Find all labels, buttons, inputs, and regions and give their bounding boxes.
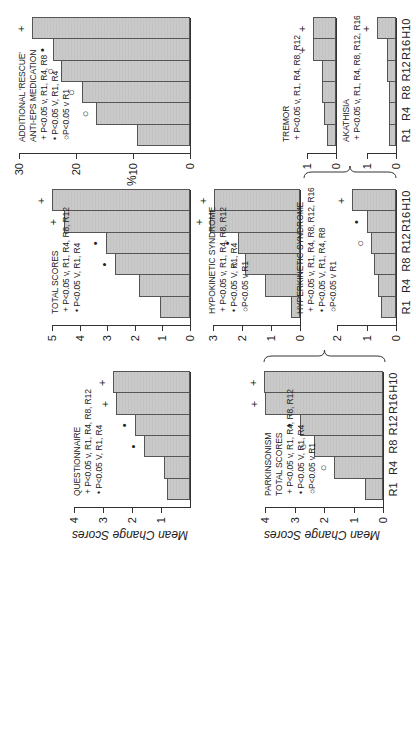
y-axis: 0123 (213, 325, 300, 326)
bar-r1 (389, 124, 396, 146)
chart-hyperkinetic: 012○•+R1R4R8R12R16H10HYPERKINETIC SYNDRO… (337, 190, 396, 318)
bar-r4 (96, 102, 190, 124)
bar-r4 (324, 102, 336, 124)
chart-title-block: QUESTIONNAIRE+ P<0.05 v, R1, R4, R8, R12… (72, 389, 105, 496)
y-tick (271, 325, 272, 331)
bar-r8 (82, 81, 190, 103)
y-tick-label: 3 (289, 517, 300, 523)
y-tick-label: 2 (237, 335, 248, 341)
chart-title: PARKINSONISM (263, 389, 274, 496)
significance-marker: • (90, 241, 101, 245)
bar-r4 (378, 274, 396, 296)
x-category-label: R8 (387, 440, 399, 454)
x-category-label: R1 (400, 300, 412, 314)
y-axis: 012345 (52, 325, 190, 326)
chart-title: HYPOKINETIC SYNDROME (207, 207, 218, 314)
x-category-label: R4 (400, 107, 412, 121)
significance-marker: ○ (355, 240, 366, 247)
bar-h10 (32, 17, 190, 39)
bar-r16 (116, 392, 190, 414)
chart-title-block: AKATHISIA+ P<0.05 v, R1, R4, R8, R12, R1… (341, 15, 363, 142)
y-tick-label: 10 (128, 163, 139, 175)
bar-r8 (314, 435, 383, 457)
y-tick (242, 325, 243, 331)
chart-title-block: PARKINSONISMTOTAL SCORES+ P<0.05 v, R1, … (263, 389, 318, 496)
chart-title-block: TOTAL SCORES+ P<0.05 v, R1, R4, R8, R12•… (50, 207, 83, 314)
bar-r1 (160, 296, 190, 318)
y-axis: 1234 (74, 507, 190, 508)
y-tick (103, 507, 104, 513)
legend-entry: • P<0.05 V, R1, R4 (94, 389, 105, 496)
y-tick (337, 325, 338, 331)
x-category-label: R4 (400, 279, 412, 293)
baseline (396, 190, 397, 326)
y-axis: 012 (337, 325, 396, 326)
baseline (190, 18, 191, 154)
x-category-label: R8 (400, 258, 412, 272)
y-tick (367, 325, 368, 331)
bar-r8 (322, 81, 337, 103)
bar-r16 (387, 38, 396, 60)
chart-title: HYPERKINETIC SYNDROME (295, 187, 306, 314)
x-category-label: R12 (387, 415, 399, 435)
bar-h10 (377, 17, 396, 39)
bar-r1 (365, 478, 383, 500)
x-category-label: R1 (387, 482, 399, 496)
y-axis: 01234 (265, 507, 383, 508)
y-tick (135, 325, 136, 331)
x-category-label: H10 (400, 191, 412, 211)
bar-r4 (139, 274, 190, 296)
y-tick-label: 2 (127, 517, 138, 523)
y-tick-label: 1 (157, 335, 168, 341)
y-tick-label: 4 (260, 517, 271, 523)
legend-entry: + P<0.05 v, R1, R4, R8, R12 (218, 207, 229, 314)
y-tick-label: 3 (102, 335, 113, 341)
y-axis-label: % (125, 175, 139, 186)
y-tick-label: 1 (361, 335, 372, 341)
legend-entry: + P<0.05 v, R1, R4, R8, R12 (292, 35, 303, 142)
bar-r1 (167, 478, 190, 500)
x-category-label: R12 (400, 233, 412, 253)
y-tick (80, 325, 81, 331)
bar-r4 (164, 456, 190, 478)
significance-marker: + (36, 197, 47, 203)
y-axis: 01 (307, 153, 336, 154)
bar-r12 (106, 232, 190, 254)
legend-entry: + P<0.05 v, R1, R4, R8, R12, R16 (352, 15, 363, 142)
y-tick (74, 507, 75, 513)
significance-marker: ○ (318, 465, 329, 472)
bar-r16 (367, 210, 397, 232)
bar-r8 (389, 81, 396, 103)
chart-questionnaire: 1234••++QUESTIONNAIRE+ P<0.05 v, R1, R4,… (74, 372, 190, 500)
bar-r12 (61, 60, 190, 82)
chart-total_scores: 012345••++TOTAL SCORES+ P<0.05 v, R1, R4… (52, 190, 190, 318)
y-tick-label: 2 (332, 335, 343, 341)
chart-akathisia: 01+R1R4R8R12R16H10AKATHISIA+ P<0.05 v, R… (367, 18, 396, 146)
chart-title: QUESTIONNAIRE (72, 389, 83, 496)
x-category-label: R1 (400, 128, 412, 142)
x-category-label: H10 (387, 373, 399, 393)
y-axis-label: Mean Change Scores (264, 528, 380, 542)
bar-r1 (381, 296, 396, 318)
significance-marker: • (119, 423, 130, 427)
y-tick (295, 507, 296, 513)
y-tick (133, 153, 134, 159)
bar-r4 (389, 102, 396, 124)
y-tick (19, 153, 20, 159)
legend-entry: + P<0.05 v, R1, R4, R8, R12 (83, 389, 94, 496)
y-tick-label: 5 (47, 335, 58, 341)
bar-r16 (64, 210, 190, 232)
baseline (396, 18, 397, 154)
bar-r8 (245, 253, 300, 275)
baseline (383, 372, 384, 508)
bar-r16 (313, 38, 336, 60)
y-tick (324, 507, 325, 513)
rotated-figure: 1234••++QUESTIONNAIRE+ P<0.05 v, R1, R4,… (0, 0, 416, 732)
chart-title-block: HYPERKINETIC SYNDROME+ P<0.05 v, R1, R4,… (295, 187, 339, 314)
chart-title-block: TREMOR+ P<0.05 v, R1, R4, R8, R12 (281, 35, 303, 142)
chart-parkinsonism: 01234○○•++R1R4R8R12R16H10PARKINSONISMTOT… (265, 372, 383, 500)
x-category-label: R12 (400, 61, 412, 81)
y-tick-label: 4 (69, 517, 80, 523)
y-tick-label: 2 (319, 517, 330, 523)
x-category-label: R16 (400, 212, 412, 232)
